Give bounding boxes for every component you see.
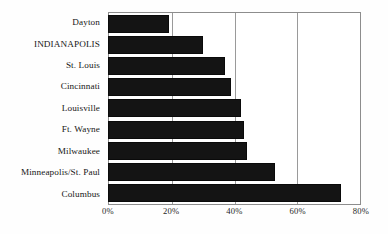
category-label-cell: Cincinnati	[0, 76, 104, 97]
category-label-cell: Milwaukee	[0, 141, 104, 162]
bar-row	[109, 77, 360, 98]
category-label: Ft. Wayne	[62, 125, 100, 134]
x-tick-label: 20%	[163, 206, 179, 216]
category-label: INDIANAPOLIS	[34, 40, 100, 49]
category-label-cell: INDIANAPOLIS	[0, 33, 104, 54]
category-label: Columbus	[61, 190, 100, 199]
category-label: Dayton	[72, 18, 100, 27]
bar-row	[109, 55, 360, 76]
bar-row	[109, 13, 360, 34]
plot-area	[108, 12, 361, 205]
category-label: Milwaukee	[58, 147, 100, 156]
category-label-cell: Minneapolis/St. Paul	[0, 162, 104, 183]
bar-row	[109, 119, 360, 140]
category-label: St. Louis	[66, 61, 100, 70]
bar	[108, 36, 203, 54]
bar-row	[109, 34, 360, 55]
x-tick-label: 40%	[226, 206, 242, 216]
bar	[108, 78, 231, 96]
x-tick-label: 0%	[102, 206, 114, 216]
bar-row	[109, 140, 360, 161]
value-axis: 0%20%40%60%80%	[108, 206, 361, 222]
category-label: Louisville	[62, 104, 100, 113]
bar-row	[109, 162, 360, 183]
category-label: Minneapolis/St. Paul	[21, 168, 100, 177]
x-tick-label: 60%	[290, 206, 306, 216]
category-label-cell: St. Louis	[0, 55, 104, 76]
category-label-cell: Louisville	[0, 98, 104, 119]
bar	[108, 184, 341, 202]
bar-row	[109, 183, 360, 204]
bars-layer	[109, 13, 360, 204]
bar-chart: DaytonINDIANAPOLISSt. LouisCincinnatiLou…	[0, 0, 388, 234]
bar-row	[109, 98, 360, 119]
bar	[108, 142, 247, 160]
bar	[108, 57, 225, 75]
category-label-cell: Ft. Wayne	[0, 119, 104, 140]
bar	[108, 121, 244, 139]
category-label-cell: Dayton	[0, 12, 104, 33]
x-tick-label: 80%	[353, 206, 369, 216]
category-axis: DaytonINDIANAPOLISSt. LouisCincinnatiLou…	[0, 12, 104, 205]
bar	[108, 163, 275, 181]
bar	[108, 99, 241, 117]
category-label-cell: Columbus	[0, 184, 104, 205]
bar	[108, 15, 169, 33]
category-label: Cincinnati	[61, 82, 100, 91]
